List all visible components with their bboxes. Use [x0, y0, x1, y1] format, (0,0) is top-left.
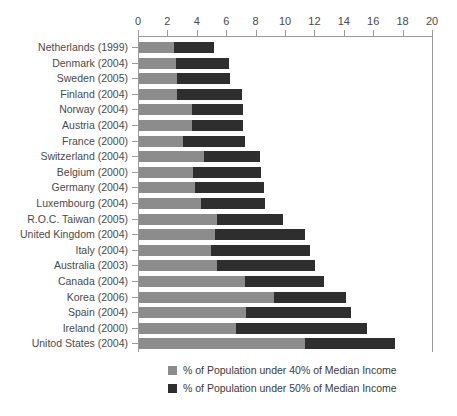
- bar-segment-under-50: [192, 104, 243, 115]
- category-label: Austria (2004): [0, 117, 128, 134]
- chart-row: France (2000): [0, 133, 457, 150]
- stacked-bar: [139, 260, 315, 271]
- x-axis-tick: [344, 30, 345, 36]
- y-axis-tick: [132, 234, 138, 235]
- x-axis-tick: [226, 30, 227, 36]
- chart-row: Netherlands (1999): [0, 39, 457, 56]
- bar-segment-under-50: [204, 151, 260, 162]
- bar-segment-under-50: [305, 338, 395, 349]
- stacked-bar: [139, 73, 230, 84]
- bar-segment-under-40: [139, 292, 274, 303]
- bar-segment-under-50: [192, 120, 243, 131]
- bar-segment-under-50: [236, 323, 367, 334]
- stacked-bar: [139, 182, 264, 193]
- bar-segment-under-40: [139, 214, 217, 225]
- stacked-bar: [139, 120, 243, 131]
- chart-row: Ireland (2000): [0, 320, 457, 337]
- x-axis-tick-label: 8: [244, 15, 268, 27]
- y-axis-tick: [132, 265, 138, 266]
- x-axis-tick: [432, 30, 433, 36]
- category-label: France (2000): [0, 133, 128, 150]
- x-axis-tick: [314, 30, 315, 36]
- bar-segment-under-50: [177, 73, 230, 84]
- category-label: Spain (2004): [0, 304, 128, 321]
- chart-row: Sweden (2005): [0, 70, 457, 87]
- bar-segment-under-50: [183, 136, 245, 147]
- x-axis-tick-label: 12: [302, 15, 326, 27]
- chart-row: Austria (2004): [0, 117, 457, 134]
- bar-segment-under-50: [193, 167, 261, 178]
- bar-segment-under-40: [139, 73, 177, 84]
- stacked-bar: [139, 58, 229, 69]
- y-axis-tick: [132, 343, 138, 344]
- x-axis-tick-label: 6: [214, 15, 238, 27]
- stacked-bar: [139, 167, 261, 178]
- stacked-bar: [139, 136, 245, 147]
- y-axis-tick: [132, 109, 138, 110]
- chart-row: Germany (2004): [0, 179, 457, 196]
- legend-swatch-icon: [168, 366, 177, 375]
- category-label: Sweden (2005): [0, 70, 128, 87]
- x-axis-tick-label: 20: [420, 15, 444, 27]
- x-axis-tick: [403, 30, 404, 36]
- x-axis-tick-label: 0: [126, 15, 150, 27]
- bar-segment-under-40: [139, 42, 174, 53]
- bar-segment-under-40: [139, 167, 193, 178]
- stacked-bar: [139, 338, 395, 349]
- stacked-bar: [139, 245, 310, 256]
- stacked-bar: [139, 42, 214, 53]
- x-axis-tick-label: 2: [155, 15, 179, 27]
- x-axis-tick-label: 4: [185, 15, 209, 27]
- chart-row: Norway (2004): [0, 101, 457, 118]
- x-axis-tick-label: 16: [361, 15, 385, 27]
- y-axis-tick: [132, 203, 138, 204]
- category-label: Norway (2004): [0, 101, 128, 118]
- bar-segment-under-50: [246, 307, 350, 318]
- category-label: Netherlands (1999): [0, 39, 128, 56]
- chart-row: Switzerland (2004): [0, 148, 457, 165]
- y-axis-tick: [132, 219, 138, 220]
- bar-segment-under-40: [139, 182, 195, 193]
- category-label: Ireland (2000): [0, 320, 128, 337]
- bar-segment-under-40: [139, 89, 177, 100]
- x-axis-line: [138, 36, 432, 37]
- chart-row: Italy (2004): [0, 242, 457, 259]
- category-label: Australia (2003): [0, 257, 128, 274]
- category-label: Denmark (2004): [0, 55, 128, 72]
- bar-segment-under-40: [139, 260, 217, 271]
- bar-segment-under-40: [139, 104, 192, 115]
- chart-row: Unitod States (2004): [0, 335, 457, 352]
- category-label: Luxembourg (2004): [0, 195, 128, 212]
- chart-row: Denmark (2004): [0, 55, 457, 72]
- poverty-rate-bar-chart: 02468101214161820 Netherlands (1999)Denm…: [0, 0, 457, 416]
- bar-segment-under-40: [139, 229, 215, 240]
- stacked-bar: [139, 214, 283, 225]
- x-axis-tick: [167, 30, 168, 36]
- bar-segment-under-50: [217, 214, 283, 225]
- x-axis-tick: [197, 30, 198, 36]
- chart-legend: % of Population under 40% of Median Inco…: [168, 362, 448, 398]
- stacked-bar: [139, 323, 367, 334]
- chart-row: Belgium (2000): [0, 164, 457, 181]
- bar-segment-under-40: [139, 198, 201, 209]
- chart-row: Luxembourg (2004): [0, 195, 457, 212]
- chart-row: Spain (2004): [0, 304, 457, 321]
- stacked-bar: [139, 151, 260, 162]
- legend-item: % of Population under 40% of Median Inco…: [168, 362, 448, 378]
- bar-segment-under-50: [177, 89, 242, 100]
- y-axis-tick: [132, 125, 138, 126]
- y-axis-tick: [132, 78, 138, 79]
- y-axis-tick: [132, 172, 138, 173]
- x-axis-tick: [138, 30, 139, 36]
- chart-row: Korea (2006): [0, 289, 457, 306]
- bar-segment-under-50: [176, 58, 229, 69]
- chart-row: Finland (2004): [0, 86, 457, 103]
- x-axis-tick-label: 14: [332, 15, 356, 27]
- bar-segment-under-50: [174, 42, 214, 53]
- y-axis-tick: [132, 94, 138, 95]
- category-label: R.O.C. Taiwan (2005): [0, 211, 128, 228]
- x-axis-tick: [373, 30, 374, 36]
- y-axis-tick: [132, 63, 138, 64]
- stacked-bar: [139, 229, 305, 240]
- category-label: Italy (2004): [0, 242, 128, 259]
